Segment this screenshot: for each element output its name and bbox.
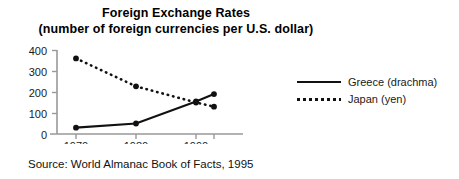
data-point-marker <box>133 121 139 127</box>
y-tick-label-200: 200 <box>29 87 47 99</box>
data-point-marker <box>73 56 79 62</box>
y-tick-label-0: 0 <box>41 129 47 141</box>
x-tick-label-1980: 1980 <box>124 140 148 144</box>
y-tick-label-100: 100 <box>29 108 47 120</box>
legend-label-japan: Japan (yen) <box>348 93 406 105</box>
y-tick-label-300: 300 <box>29 66 47 78</box>
chart-legend: Greece (drachma) Japan (yen) <box>297 73 457 107</box>
data-point-marker <box>193 99 199 105</box>
chart-title-line-2: (number of foreign currencies per U.S. d… <box>0 21 352 37</box>
legend-item-japan: Japan (yen) <box>297 90 457 107</box>
data-point-marker <box>73 125 79 131</box>
source-note: Source: World Almanac Book of Facts, 199… <box>28 158 253 170</box>
legend-swatch-dotted-line-icon <box>297 93 341 105</box>
x-tick-label-1990: 1990 <box>184 140 208 144</box>
line-chart-svg: 400 300 200 100 0 1970 1980 1990 1993 <box>0 44 300 144</box>
series-line-greece <box>76 94 214 128</box>
legend-item-greece: Greece (drachma) <box>297 73 457 90</box>
chart-plot-area: 400 300 200 100 0 1970 1980 1990 1993 <box>0 44 300 144</box>
chart-title: Foreign Exchange Rates (number of foreig… <box>0 5 352 37</box>
data-point-marker <box>211 104 217 110</box>
data-point-marker <box>133 83 139 89</box>
chart-page: Foreign Exchange Rates (number of foreig… <box>0 0 459 179</box>
legend-swatch-solid-line-icon <box>297 76 341 88</box>
series-markers-greece <box>73 91 217 130</box>
data-point-marker <box>211 91 217 97</box>
legend-label-greece: Greece (drachma) <box>348 76 437 88</box>
x-tick-label-1970: 1970 <box>64 140 88 144</box>
chart-title-line-1: Foreign Exchange Rates <box>0 5 352 21</box>
y-tick-label-400: 400 <box>29 45 47 57</box>
series-line-japan <box>76 58 214 106</box>
